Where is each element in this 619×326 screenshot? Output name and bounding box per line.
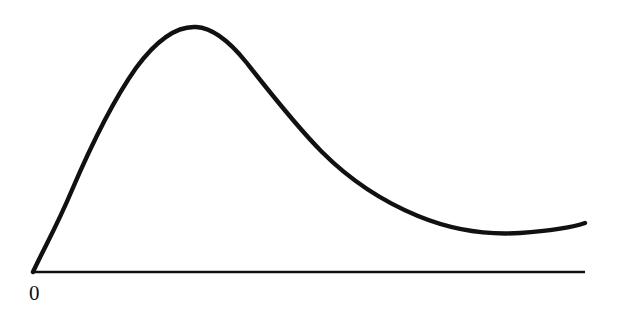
plotted-curve	[33, 27, 585, 272]
origin-label: 0	[29, 283, 40, 304]
plot-svg	[0, 0, 619, 326]
figure-canvas: 0	[0, 0, 619, 326]
